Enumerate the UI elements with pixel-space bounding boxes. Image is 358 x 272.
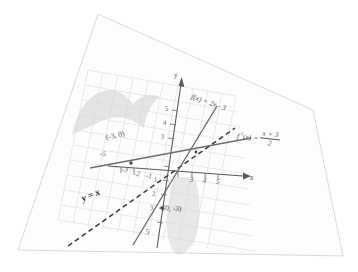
y-tick-5: 5 [164, 105, 169, 113]
inverse-fn-argument: (x) [243, 132, 252, 142]
y-tick-minus-2: 2 [151, 190, 156, 198]
point-minus3-0 [129, 161, 132, 164]
x-tick-3: 3 [190, 176, 194, 184]
y-tick-minus-3: 3 [149, 204, 154, 212]
label-point-0-minus3: (0, -3) [162, 203, 181, 213]
inverse-fn-equals: = [253, 133, 259, 142]
y-tick-4: 4 [162, 119, 167, 127]
x-tick-minus-3: -3 [122, 166, 128, 174]
x-tick-minus-1: -1 [146, 172, 152, 180]
x-tick-4: 4 [203, 177, 207, 185]
y-tick-minus-5: 5 [145, 228, 150, 236]
y-tick-3: 3 [160, 133, 165, 141]
graph-group [0, 0, 358, 272]
figure-canvas: x y 5 4 3 1 2 3 5 3 4 5 -5 -3 -2 -1 f(x)… [0, 0, 358, 272]
axis-label-x: x [250, 173, 253, 182]
x-tick-5: 5 [216, 178, 220, 186]
point-intersection [195, 151, 198, 154]
x-tick-minus-2: -2 [134, 170, 140, 178]
line-f-inverse [90, 138, 251, 168]
paper-shadow-upper [72, 90, 160, 135]
inverse-fraction: x + 3 2 [259, 129, 281, 148]
x-tick-minus-5: -5 [100, 150, 106, 158]
